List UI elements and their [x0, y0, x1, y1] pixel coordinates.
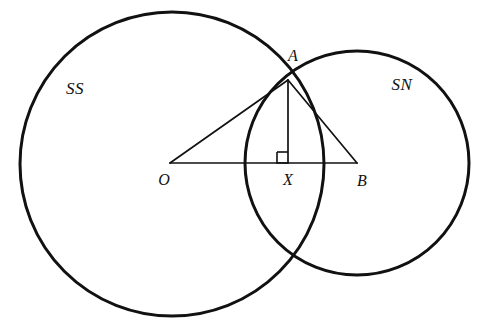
- circle-label-sn: SN: [392, 76, 413, 93]
- right-angle-marker-icon: [277, 152, 288, 163]
- point-label-b: B: [357, 173, 367, 189]
- geometry-figure: SS SN O A X B: [0, 0, 489, 335]
- point-label-a: A: [288, 48, 298, 64]
- point-label-o: O: [158, 172, 170, 188]
- circle-label-ss: SS: [66, 80, 84, 97]
- circle-ss: [20, 12, 324, 316]
- point-label-x: X: [283, 172, 293, 188]
- geometry-canvas: [0, 0, 489, 335]
- segment-oa: [170, 80, 288, 163]
